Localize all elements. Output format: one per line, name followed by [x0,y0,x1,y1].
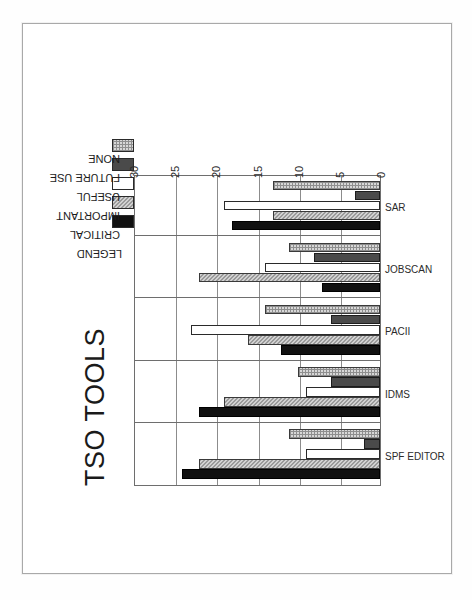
y-axis-tick-15: 15 [252,165,264,177]
bar-idms-future-use [331,377,380,387]
y-axis-tick-20: 20 [210,165,222,177]
group-separator-3 [135,297,380,298]
bar-pacii-none [265,304,380,314]
x-axis-label-pacii: PACII [385,326,410,337]
bar-idms-important [224,397,380,407]
bar-pacii-useful [191,325,380,335]
legend-title: LEGEND [77,248,122,260]
scanned-page: TSO TOOLS LEGENDCRITICALIMPORTANTUSEFULF… [0,0,472,600]
bar-jobscan-future-use [314,252,380,262]
y-axis-tick-5: 5 [334,171,346,177]
chart-canvas: TSO TOOLS LEGENDCRITICALIMPORTANTUSEFULF… [72,104,402,494]
x-axis-label-idms: IDMS [385,388,410,399]
bar-sar-useful [224,200,380,210]
plot-area [134,175,381,486]
y-axis-tick-30: 30 [128,165,140,177]
bar-spf-editor-important [199,459,380,469]
bar-sar-important [273,210,380,220]
bar-sar-critical [232,220,380,230]
group-separator-2 [135,359,380,360]
gridline-value-25 [176,176,177,485]
legend-label-future-use: FUTURE USE [50,172,120,184]
bar-idms-none [298,367,380,377]
group-separator-4 [135,235,380,236]
y-axis-tick-0: 0 [375,171,387,177]
x-axis-label-spf-editor: SPF EDITOR [385,450,445,461]
legend-swatch-none [112,139,134,152]
bar-idms-useful [306,387,380,397]
y-axis-tick-25: 25 [169,165,181,177]
legend-label-none: NONE [88,153,120,165]
bar-jobscan-critical [322,282,380,292]
bar-sar-none [273,180,380,190]
bar-spf-editor-critical [182,469,380,479]
legend-label-critical: CRITICAL [70,229,120,241]
legend-label-useful: USEFUL [77,191,120,203]
bar-jobscan-useful [265,262,380,272]
page-border-frame: TSO TOOLS LEGENDCRITICALIMPORTANTUSEFULF… [22,23,452,574]
bar-spf-editor-none [289,429,380,439]
bar-idms-critical [199,407,380,417]
bar-jobscan-none [289,242,380,252]
bar-spf-editor-future-use [364,439,380,449]
bar-jobscan-important [199,272,380,282]
group-separator-1 [135,421,380,422]
x-axis-label-jobscan: JOBSCAN [385,264,432,275]
x-axis-label-sar: SAR [385,202,406,213]
y-axis-tick-10: 10 [293,165,305,177]
plot-area-wrapper [134,175,381,486]
legend-label-important: IMPORTANT [56,210,120,222]
bar-pacii-future-use [331,314,380,324]
bar-sar-future-use [355,190,380,200]
bar-pacii-important [248,335,380,345]
chart-title: TSO TOOLS [80,327,111,485]
bar-pacii-critical [281,345,380,355]
bar-spf-editor-useful [306,449,380,459]
